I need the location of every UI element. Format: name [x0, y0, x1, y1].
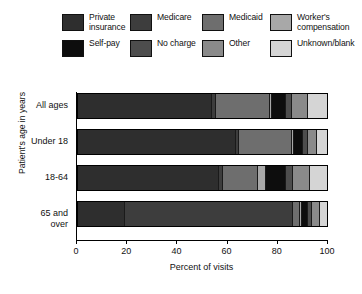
legend-swatch-medicaid — [202, 14, 224, 31]
bar-segment — [78, 166, 218, 190]
bar-segment — [292, 166, 309, 190]
y-axis-category-label: Under 18 — [31, 136, 68, 147]
bar-row — [77, 129, 328, 155]
legend-swatch-self-pay — [62, 40, 84, 57]
bar-segment — [291, 94, 307, 118]
y-axis-category-label: 65 and over — [40, 208, 68, 229]
y-axis-category-label: All ages — [36, 100, 68, 111]
bar-segment — [265, 166, 285, 190]
x-axis-line: 020406080100 — [76, 240, 327, 241]
legend-swatch-no-charge — [130, 40, 152, 57]
legend-item-label: Private insurance — [89, 13, 125, 32]
legend-item-label: Self-pay — [89, 39, 120, 49]
legend-item: Self-pay — [62, 39, 130, 57]
bar-segment — [311, 202, 319, 226]
legend-item: Worker's compensation — [270, 13, 354, 32]
bar-segment — [319, 202, 327, 226]
legend-item-label: Unknown/blank — [297, 39, 354, 49]
x-axis-tick-label: 60 — [222, 246, 232, 256]
bar-segment — [78, 94, 211, 118]
x-axis-tick — [126, 240, 127, 244]
y-axis-category-label: 18-64 — [45, 172, 68, 183]
legend-item-label: Other — [229, 39, 250, 49]
bar-segment — [78, 202, 124, 226]
legend-item: No charge — [130, 39, 202, 57]
bar-row — [77, 201, 328, 227]
plot-area — [76, 92, 328, 240]
bar-segment — [316, 130, 327, 154]
chart-legend: Private insuranceMedicareMedicaidWorker'… — [62, 13, 354, 65]
bar-segment — [222, 166, 257, 190]
x-axis-tick-label: 80 — [272, 246, 282, 256]
legend-item: Unknown/blank — [270, 39, 354, 57]
bar-segment — [257, 166, 265, 190]
y-axis-category-labels: All agesUnder 1818-6465 and over — [0, 92, 72, 240]
x-axis-tick — [76, 240, 77, 244]
legend-item: Medicare — [130, 13, 202, 31]
legend-item-label: Medicare — [157, 13, 192, 23]
bar-segment — [124, 202, 292, 226]
x-axis-tick — [327, 240, 328, 244]
legend-swatch-workers-compensation — [270, 14, 292, 31]
bar-segment — [238, 130, 291, 154]
legend-item-label: No charge — [157, 39, 196, 49]
legend-swatch-private-insurance — [62, 14, 84, 31]
bar-segment — [307, 130, 316, 154]
bar-segment — [285, 166, 292, 190]
x-axis-tick-label: 0 — [73, 246, 78, 256]
legend-item-label: Worker's compensation — [297, 13, 349, 32]
bar-segment — [309, 166, 327, 190]
legend-swatch-unknown-blank — [270, 40, 292, 57]
x-axis-tick-label: 40 — [171, 246, 181, 256]
legend-item-label: Medicaid — [229, 13, 263, 23]
chart-root: Private insuranceMedicareMedicaidWorker'… — [0, 0, 362, 294]
legend-swatch-medicare — [130, 14, 152, 31]
bar-row — [77, 165, 328, 191]
legend-item: Other — [202, 39, 270, 57]
x-axis-tick-label: 20 — [121, 246, 131, 256]
legend-swatch-other — [202, 40, 224, 57]
bar-segment — [307, 94, 327, 118]
x-axis-tick-label: 100 — [319, 246, 334, 256]
x-axis-tick — [176, 240, 177, 244]
bar-segment — [271, 94, 285, 118]
legend-item: Private insurance — [62, 13, 130, 32]
bar-segment — [292, 202, 299, 226]
bar-segment — [293, 130, 302, 154]
bar-row — [77, 93, 328, 119]
x-axis-tick — [277, 240, 278, 244]
x-axis-tick — [227, 240, 228, 244]
bar-segment — [78, 130, 235, 154]
legend-item: Medicaid — [202, 13, 270, 31]
bar-segment — [215, 94, 269, 118]
x-axis-title: Percent of visits — [76, 262, 327, 272]
